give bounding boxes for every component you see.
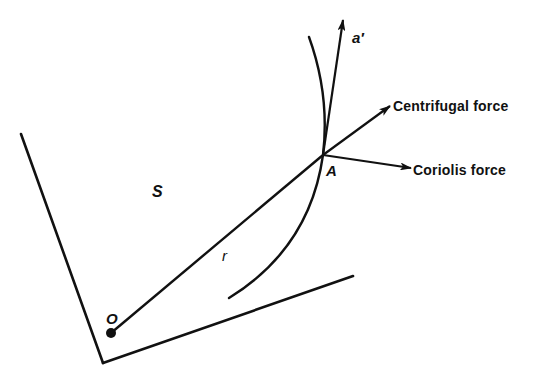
- frame-axis-bottom: [103, 276, 353, 363]
- rotating-frame-diagram: a′ Centrifugal force Coriolis force A S …: [0, 0, 544, 388]
- centrifugal-force-label: Centrifugal force: [393, 99, 508, 113]
- frame-axis-left: [21, 134, 103, 363]
- trajectory-curve: [229, 37, 325, 298]
- frame-s-label: S: [152, 184, 163, 200]
- radius-line: [111, 155, 323, 333]
- diagram-canvas: [0, 0, 544, 388]
- point-a-label: A: [326, 163, 337, 178]
- coriolis-force-label: Coriolis force: [413, 163, 506, 177]
- centrifugal-force-arrow: [323, 106, 390, 155]
- acceleration-label: a′: [352, 30, 364, 45]
- acceleration-arrow: [323, 20, 343, 155]
- radius-r-label: r: [222, 248, 227, 263]
- origin-o-label: O: [106, 311, 118, 326]
